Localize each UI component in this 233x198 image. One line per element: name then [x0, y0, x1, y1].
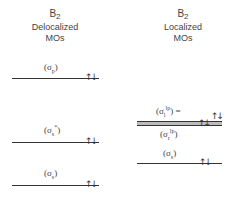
- level-label-sigma-s-star: (σs*): [44, 124, 60, 137]
- electron-pair-icon: ↑↓: [85, 137, 96, 146]
- localized-header: B2 Localized MOs: [153, 8, 213, 44]
- level-label-sigma-r-lp: (σrlp): [160, 128, 178, 141]
- electron-pair-icon: ↑↓: [211, 112, 222, 121]
- electron-pair-icon: ↑↓: [85, 73, 96, 82]
- title-line2: MOs: [25, 33, 85, 44]
- electron-pair-icon: ↑↓: [85, 180, 96, 189]
- level-label-sigma-l-lp: (σllp) =: [156, 105, 181, 118]
- subscript: 2: [184, 12, 188, 21]
- energy-level-lone-pairs: [137, 121, 222, 126]
- electron-pair-icon: ↑↓: [199, 158, 210, 167]
- title-line2: MOs: [153, 33, 213, 44]
- title-line1: Localized: [153, 22, 213, 33]
- subscript: 2: [56, 12, 60, 21]
- level-label-sigma-s-right: (σs): [163, 148, 176, 160]
- electron-pair-icon: ↑↓: [198, 119, 209, 128]
- level-label-sigma-s: (σs): [44, 168, 57, 180]
- title-line1: Delocalized: [25, 22, 85, 33]
- delocalized-header: B2 Delocalized MOs: [25, 8, 85, 44]
- level-label-sigma-p: (σp): [44, 62, 58, 74]
